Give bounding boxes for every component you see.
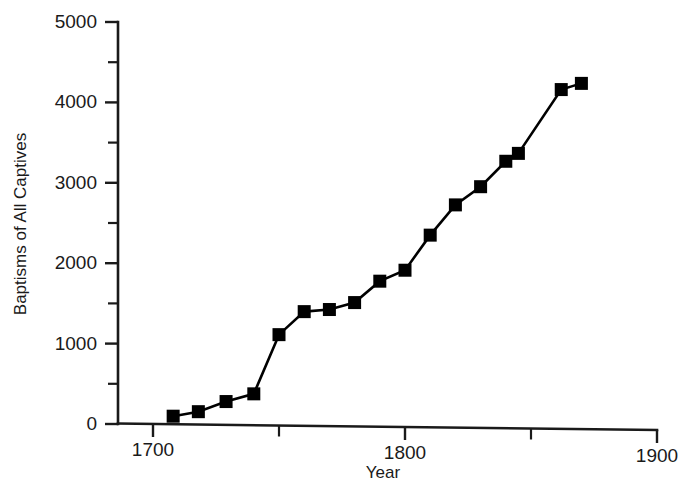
x-tick-label: 1900 (636, 445, 678, 466)
data-point-marker (373, 275, 386, 288)
data-point-marker (474, 180, 487, 193)
y-tick-label: 1000 (55, 333, 97, 354)
data-point-marker (399, 264, 412, 277)
y-tick-label: 5000 (55, 11, 97, 32)
x-tick-label: 1700 (132, 439, 174, 460)
y-tick-label: 3000 (55, 172, 97, 193)
data-point-marker (512, 147, 525, 160)
data-point-marker (499, 155, 512, 168)
y-axis-title: Baptisms of All Captives (11, 133, 30, 315)
data-point-marker (273, 328, 286, 341)
data-point-marker (167, 410, 180, 423)
data-series (167, 77, 588, 423)
data-point-marker (424, 229, 437, 242)
data-point-marker (298, 305, 311, 318)
data-point-marker (247, 387, 260, 400)
data-point-marker (555, 83, 568, 96)
data-point-marker (323, 303, 336, 316)
data-point-marker (348, 296, 361, 309)
data-point-marker (220, 395, 233, 408)
series-line (173, 83, 581, 416)
line-chart: 010002000300040005000170018001900 Baptis… (0, 0, 693, 490)
x-axis-line (118, 424, 657, 430)
data-point-marker (575, 77, 588, 90)
y-tick-label: 4000 (55, 91, 97, 112)
y-tick-label: 2000 (55, 252, 97, 273)
data-point-marker (192, 405, 205, 418)
y-tick-label: 0 (86, 413, 97, 434)
x-axis-title: Year (366, 463, 401, 482)
chart-container: 010002000300040005000170018001900 Baptis… (0, 0, 693, 490)
data-point-marker (449, 198, 462, 211)
x-tick-label: 1800 (384, 442, 426, 463)
